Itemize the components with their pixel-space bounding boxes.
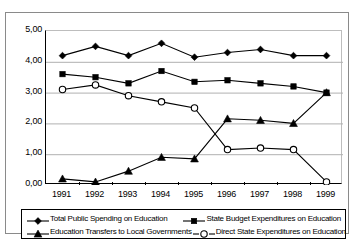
x-axis-labels: 199119921993199419951996199719981999 bbox=[45, 189, 342, 203]
data-point-filled-square bbox=[126, 81, 131, 86]
legend-item[interactable]: Direct State Expenditures on Education bbox=[192, 225, 346, 238]
y-axis-tick-label: 1,00 bbox=[8, 148, 42, 157]
data-point-filled-square bbox=[225, 78, 230, 83]
data-point-open-circle bbox=[125, 92, 131, 98]
plot-lines-svg bbox=[46, 31, 343, 185]
legend-item-label: State Budget Expenditures on Education bbox=[206, 214, 341, 223]
data-point-filled-square bbox=[291, 84, 296, 89]
legend-key-filled-triangle bbox=[26, 228, 50, 240]
legend-row: Total Public Spending on EducationState … bbox=[26, 212, 341, 225]
data-point-open-circle bbox=[59, 86, 65, 92]
data-point-filled-diamond bbox=[191, 54, 198, 61]
top-scan-artifact bbox=[120, 1, 190, 6]
legend-item-label: Education Transfers to Local Governments bbox=[50, 227, 192, 236]
y-axis-labels: 0,001,002,003,004,005,00 bbox=[6, 13, 42, 203]
y-axis-tick-label: 5,00 bbox=[8, 25, 42, 34]
data-point-open-circle bbox=[92, 82, 98, 88]
legend-item-label: Total Public Spending on Education bbox=[50, 214, 167, 223]
data-point-open-circle bbox=[257, 145, 263, 151]
x-axis-tick-label: 1997 bbox=[250, 189, 269, 199]
x-axis-tick-label: 1992 bbox=[85, 189, 104, 199]
data-point-filled-diamond bbox=[290, 52, 297, 59]
y-axis-tick-label: 3,00 bbox=[8, 87, 42, 96]
y-axis-tick-label: 0,00 bbox=[8, 179, 42, 188]
data-point-open-circle bbox=[158, 99, 164, 105]
data-point-filled-diamond bbox=[59, 52, 66, 59]
legend-item-label: Direct State Expenditures on Education bbox=[216, 227, 346, 236]
chart-legend: Total Public Spending on EducationState … bbox=[21, 209, 346, 239]
data-point-filled-diamond bbox=[257, 46, 264, 53]
data-point-filled-square bbox=[159, 68, 164, 73]
data-point-filled-triangle bbox=[59, 175, 67, 182]
legend-row: Education Transfers to Local Governments… bbox=[26, 225, 341, 238]
data-point-filled-diamond bbox=[323, 52, 330, 59]
data-point-open-circle bbox=[290, 146, 296, 152]
data-point-filled-diamond bbox=[224, 49, 231, 56]
y-axis-tick-label: 4,00 bbox=[8, 56, 42, 65]
data-point-filled-square bbox=[258, 81, 263, 86]
data-point-open-circle bbox=[200, 230, 206, 236]
legend-item[interactable]: State Budget Expenditures on Education bbox=[182, 212, 341, 225]
y-axis-tick-label: 2,00 bbox=[8, 117, 42, 126]
data-point-filled-diamond bbox=[125, 52, 132, 59]
x-axis-tick-label: 1998 bbox=[283, 189, 302, 199]
data-point-filled-diamond bbox=[158, 40, 165, 47]
data-point-filled-square bbox=[93, 75, 98, 80]
chart-container: 0,001,002,003,004,005,00 199119921993199… bbox=[0, 0, 355, 240]
legend-item[interactable]: Education Transfers to Local Governments bbox=[26, 225, 192, 238]
data-point-filled-diamond bbox=[92, 43, 99, 50]
chart-frame: 0,001,002,003,004,005,00 199119921993199… bbox=[5, 12, 349, 234]
data-point-open-circle bbox=[224, 146, 230, 152]
data-point-filled-square bbox=[60, 71, 65, 76]
x-axis-tick-label: 1996 bbox=[217, 189, 236, 199]
series-line-3 bbox=[63, 85, 327, 182]
x-axis-tick-label: 1991 bbox=[52, 189, 71, 199]
data-point-filled-square bbox=[192, 79, 197, 84]
x-axis-tick-label: 1999 bbox=[316, 189, 335, 199]
data-point-filled-diamond bbox=[35, 217, 42, 224]
data-point-open-circle bbox=[323, 179, 329, 185]
data-point-filled-triangle bbox=[125, 167, 133, 174]
x-axis-tick-label: 1995 bbox=[184, 189, 203, 199]
legend-item[interactable]: Total Public Spending on Education bbox=[26, 212, 182, 225]
x-axis-tick-label: 1994 bbox=[151, 189, 170, 199]
plot-area bbox=[45, 30, 342, 184]
x-axis-tick-label: 1993 bbox=[118, 189, 137, 199]
data-point-filled-square bbox=[192, 218, 197, 223]
legend-marker-icon bbox=[26, 226, 50, 238]
legend-key-open-circle bbox=[192, 228, 216, 240]
legend-marker-icon bbox=[192, 226, 216, 238]
data-point-open-circle bbox=[191, 105, 197, 111]
legend-marker-icon bbox=[26, 213, 50, 225]
legend-marker-icon bbox=[182, 213, 206, 225]
